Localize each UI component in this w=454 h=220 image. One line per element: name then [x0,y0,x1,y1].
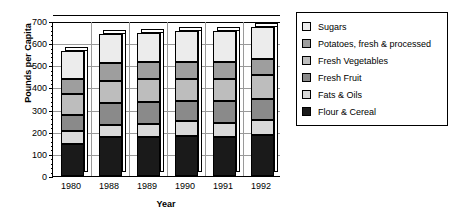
bar-segment[interactable] [213,123,236,137]
bar-segment[interactable] [251,99,274,120]
legend-swatch [302,22,311,31]
bar-3d-side [84,47,88,172]
legend-item[interactable]: Fresh Fruit [302,69,443,86]
bar-segment[interactable] [251,59,274,76]
legend-item[interactable]: Potatoes, fresh & processed [302,35,443,52]
y-minor-tick [51,106,53,107]
bar-segment[interactable] [99,137,122,176]
bar-segment[interactable] [213,62,236,79]
bar-segment[interactable] [213,101,236,123]
legend-label: Flour & Cereal [318,107,376,117]
chart-figure: Pounds per Capita 0100200300400500600700… [0,0,454,220]
y-tick [49,44,53,45]
bar-segment[interactable] [99,63,122,81]
vertical-gridline [129,22,130,176]
bar-3d-top [217,27,240,31]
y-minor-tick [51,49,53,50]
y-tick-label: 100 [32,150,47,159]
bar-segment[interactable] [99,125,122,137]
bar-segment[interactable] [251,120,274,136]
y-minor-tick [51,142,53,143]
bar-3d-side [198,27,202,172]
bar-segment[interactable] [99,103,122,125]
bar-segment[interactable] [61,79,84,95]
bar-segment[interactable] [213,137,236,176]
legend-swatch [302,73,311,82]
y-minor-tick [51,40,53,41]
plot-3d-shelf [53,15,280,22]
legend-item[interactable]: Flour & Cereal [302,103,443,120]
legend-label: Fresh Vegetables [318,56,388,66]
x-tick-label: 1989 [128,182,166,191]
y-minor-tick [51,128,53,129]
bar-segment[interactable] [137,137,160,176]
y-minor-tick [51,35,53,36]
legend-swatch [302,90,311,99]
bar-segment[interactable] [175,31,198,62]
vertical-gridline [167,22,168,176]
y-minor-tick [51,168,53,169]
y-minor-tick [51,137,53,138]
y-minor-tick [51,84,53,85]
bar-segment[interactable] [61,115,84,131]
y-tick-label: 300 [32,106,47,115]
bar-slot [175,22,198,176]
bar-segment[interactable] [213,79,236,101]
y-minor-tick [51,102,53,103]
bar-slot [99,22,122,176]
bar-slot [61,22,84,176]
y-minor-tick [51,57,53,58]
bar-segment[interactable] [175,121,198,136]
bar-segment[interactable] [137,33,160,63]
vertical-gridline [243,22,244,176]
y-tick [49,66,53,67]
bar-segment[interactable] [251,75,274,98]
bar-segment[interactable] [61,131,84,144]
bar-segment[interactable] [99,81,122,103]
bar-segment[interactable] [137,62,160,79]
y-minor-tick [51,62,53,63]
y-minor-tick [51,173,53,174]
legend-item[interactable]: Sugars [302,18,443,35]
plot-area: 0100200300400500600700 [52,22,280,177]
bar-segment[interactable] [175,136,198,176]
y-minor-tick [51,75,53,76]
y-tick-label: 700 [32,18,47,27]
legend: SugarsPotatoes, fresh & processedFresh V… [296,12,448,126]
y-minor-tick [51,115,53,116]
bar-segment[interactable] [99,34,122,63]
bar-3d-side [274,23,278,172]
bar-segment[interactable] [137,102,160,124]
bar-3d-top [141,29,164,33]
legend-swatch [302,56,311,65]
y-tick [49,88,53,89]
bar-segment[interactable] [175,101,198,121]
bar-segment[interactable] [175,79,198,101]
bar-segment[interactable] [61,144,84,176]
x-tick-label: 1980 [52,182,90,191]
bar-3d-side [122,30,126,172]
bar-segment[interactable] [137,79,160,102]
bar-segment[interactable] [175,62,198,79]
x-axis-title: Year [52,199,280,209]
x-tick-label: 1991 [204,182,242,191]
y-tick-label: 500 [32,62,47,71]
legend-item[interactable]: Fats & Oils [302,86,443,103]
vertical-gridline [91,22,92,176]
y-tick [49,133,53,134]
legend-swatch [302,107,311,116]
y-tick [49,177,53,178]
bar-segment[interactable] [137,124,160,136]
bar-segment[interactable] [61,51,84,79]
bar-3d-top [179,27,202,31]
bar-segment[interactable] [61,94,84,115]
bar-segment[interactable] [251,27,274,59]
bar-segment[interactable] [213,31,236,62]
bar-3d-top [103,30,126,34]
y-tick-label: 600 [32,40,47,49]
y-minor-tick [51,146,53,147]
bar-segment[interactable] [251,135,274,176]
y-minor-tick [51,71,53,72]
y-tick [49,155,53,156]
legend-item[interactable]: Fresh Vegetables [302,52,443,69]
